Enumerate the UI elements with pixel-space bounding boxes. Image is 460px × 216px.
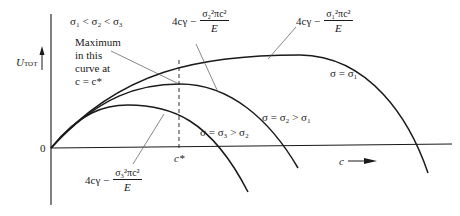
annotation-maximum: Maximum in this curve at c = c*: [75, 36, 121, 88]
condition-label: σ₁ < σ₂ < σ₃: [70, 15, 123, 27]
y-arrow-icon: [40, 46, 45, 55]
curve-label-sigma1: σ = σ₁: [330, 67, 357, 79]
x-arrow-icon: [364, 158, 377, 164]
formula-sigma2: 4cγ − σ₂²πc² E: [172, 8, 229, 34]
leader-sigma1-formula: [268, 27, 296, 59]
x-axis-label: c: [339, 155, 344, 167]
leader-sigma2-formula: [196, 44, 218, 92]
curve-label-sigma3: σ = σ₃ > σ₂: [200, 126, 249, 138]
formula-sigma2-denominator: E: [211, 21, 218, 34]
formula-sigma3-prefix: 4cγ −: [85, 174, 109, 186]
formula-sigma3-denominator: E: [124, 180, 131, 193]
formula-sigma2-prefix: 4cγ −: [172, 15, 196, 27]
curve-label-sigma2: σ = σ₂ > σ₁: [262, 111, 311, 123]
formula-sigma1-prefix: 4cγ −: [296, 15, 320, 27]
y-axis-label: UTOT: [16, 56, 37, 70]
x-axis: [51, 144, 452, 148]
formula-sigma3-numerator: σ₃²πc²: [113, 167, 141, 180]
annotation-line-2: in this: [75, 49, 121, 62]
annotation-line-4: c = c*: [75, 75, 121, 88]
y-axis-subscript: TOT: [24, 60, 37, 68]
leader-sigma3-formula: [133, 114, 164, 164]
c-star-label: c*: [174, 152, 184, 164]
annotation-line-3: curve at: [75, 62, 121, 75]
origin-label: 0: [40, 142, 46, 154]
formula-sigma1: 4cγ − σ₁²πc² E: [296, 8, 353, 34]
formula-sigma3: 4cγ − σ₃²πc² E: [85, 167, 142, 193]
formula-sigma1-denominator: E: [335, 21, 342, 34]
energy-diagram: [0, 0, 460, 216]
formula-sigma1-numerator: σ₁²πc²: [324, 8, 352, 21]
y-axis-symbol: U: [16, 56, 24, 68]
formula-sigma2-numerator: σ₂²πc²: [200, 8, 228, 21]
annotation-line-1: Maximum: [75, 36, 121, 49]
